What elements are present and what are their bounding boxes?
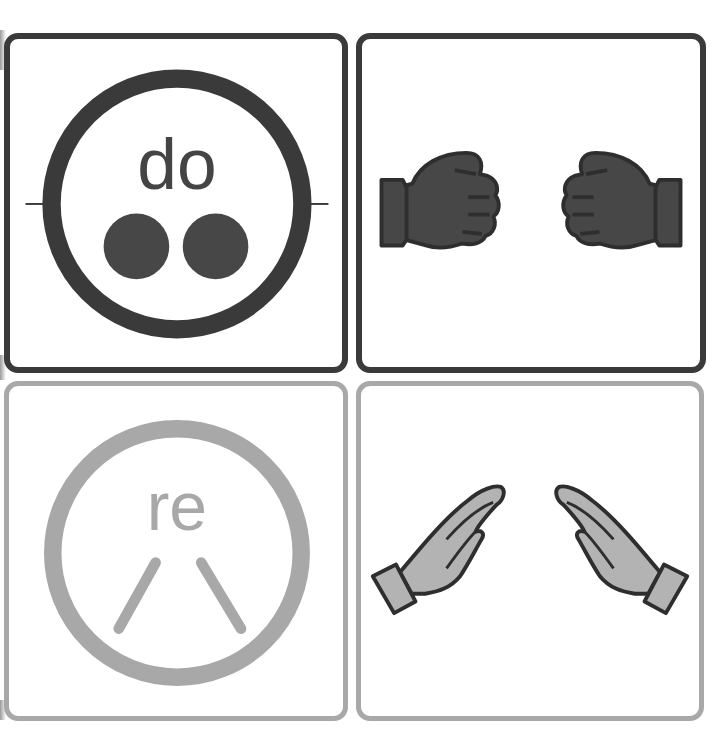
fist-left-icon: [381, 153, 498, 248]
do-symbol-graphic: do: [10, 39, 342, 367]
stroke-left-icon: [119, 563, 156, 629]
card-re-gesture: [356, 381, 704, 721]
card-re-symbol: re: [4, 381, 348, 721]
hand-left-icon: [373, 486, 504, 613]
angled-hands-graphic: [361, 386, 699, 716]
card-do-symbol: do: [4, 33, 348, 373]
outer-ring-icon: [53, 429, 301, 677]
re-symbol-graphic: re: [9, 386, 343, 716]
fist-right-icon: [563, 153, 680, 248]
stroke-right-icon: [201, 563, 241, 629]
syllable-re: re: [147, 468, 207, 544]
dot-left-icon: [104, 214, 170, 280]
dot-right-icon: [183, 214, 249, 280]
two-fists-graphic: [362, 39, 700, 367]
hand-right-icon: [556, 486, 687, 613]
card-do-gesture: [356, 33, 706, 373]
syllable-do: do: [137, 124, 216, 204]
